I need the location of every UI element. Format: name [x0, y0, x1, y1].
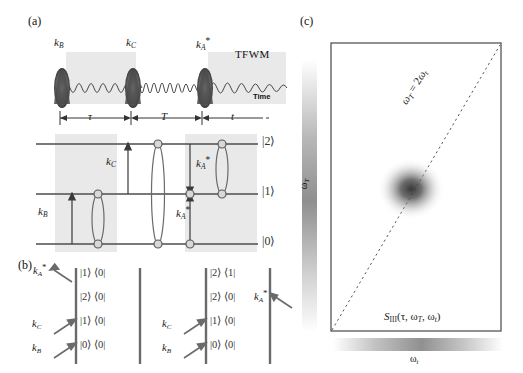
ladder-label-kC: kC: [106, 155, 116, 169]
feynman-right-state-1: |1⟩ ⟨0|: [210, 314, 235, 326]
level-ladder-diagram: [30, 130, 275, 256]
fr-kB-sub: B: [167, 347, 171, 355]
signal-function-annotation: SIII(τ, ωT, ωt): [384, 310, 440, 324]
feynman-right-label-kA: kA*: [254, 288, 267, 304]
fr-kC-sub: C: [167, 323, 172, 331]
feynman-left-label-kB: kB: [32, 342, 41, 355]
fr-kA-star: *: [263, 288, 267, 298]
feynman-left-label-kC: kC: [32, 318, 41, 331]
time-axis-label: Time: [253, 92, 270, 101]
omega-T-axis-label: ωT: [298, 179, 310, 189]
signal-sub-III: III: [390, 315, 397, 324]
pulse-kC-sub: C: [131, 41, 136, 50]
pulse-kA-star: *: [205, 36, 210, 46]
signal-args-close: ): [437, 310, 441, 322]
feynman-left-label-kA: kA*: [33, 262, 46, 278]
omega-t-axis-bar: [333, 338, 503, 351]
tfwm-signal-label: TFWM: [235, 48, 270, 60]
figure-root: (a) kB: [0, 0, 523, 373]
omega-T-sub: T: [303, 179, 310, 183]
ladder-kA-l-star: *: [185, 205, 190, 215]
omega-t-sub: t: [417, 358, 419, 365]
feynman-right-state-0: |0⟩ ⟨0|: [210, 338, 235, 350]
signal-args-mid: , ω: [422, 310, 435, 322]
ladder-kC-sub: C: [111, 160, 116, 169]
ladder-kA-u-star: *: [205, 155, 210, 165]
feynman-left-state-0: |0⟩ ⟨0|: [80, 338, 105, 350]
omega-T-axis-bar: [302, 60, 317, 332]
level-ket-0: |0⟩: [262, 234, 275, 249]
pulse-kB-sub: B: [59, 41, 64, 50]
feynman-right-label-kC: kC: [162, 318, 171, 331]
delay-label-tau: τ: [88, 110, 92, 122]
feynman-left-state-3: |1⟩ ⟨0|: [80, 266, 105, 278]
pulse-label-kA: kA*: [196, 36, 210, 52]
feynman-right-state-3: |2⟩ ⟨1|: [210, 266, 235, 278]
panel-a-label: (a): [28, 14, 41, 29]
signal-args-open: (τ, ω: [397, 310, 418, 322]
feynman-right-label-kB: kB: [162, 342, 171, 355]
ladder-label-kB: kB: [38, 205, 47, 219]
delay-label-t: t: [231, 110, 234, 122]
pulse-label-kB: kB: [54, 36, 63, 50]
panel-c-label: (c): [300, 14, 313, 29]
fl-kA-star: *: [42, 262, 46, 272]
omega-t-symbol: ω: [410, 353, 417, 364]
omega-t-axis-label: ωt: [410, 353, 418, 365]
feynman-left-state-1: |1⟩ ⟨0|: [80, 314, 105, 326]
pulse-label-kC: kC: [126, 36, 136, 50]
level-ket-1: |1⟩: [262, 184, 275, 199]
level-ket-2: |2⟩: [262, 134, 275, 149]
ladder-kB-sub: B: [43, 210, 48, 219]
ladder-label-kA-upper: kA*: [196, 155, 210, 171]
ladder-label-kA-lower: kA*: [176, 205, 190, 221]
fl-kC-sub: C: [37, 323, 42, 331]
fl-kB-sub: B: [37, 347, 41, 355]
feynman-left-state-2: |2⟩ ⟨0|: [80, 290, 105, 302]
feynman-right-state-2: |2⟩ ⟨0|: [210, 290, 235, 302]
omega-T-symbol: ω: [298, 183, 309, 190]
delay-label-T: T: [161, 110, 167, 122]
